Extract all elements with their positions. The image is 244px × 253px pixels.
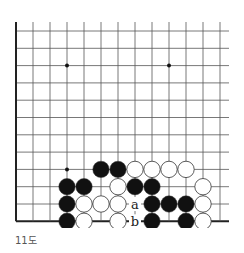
white-stone (93, 196, 109, 212)
white-stone (127, 161, 143, 177)
white-stone (144, 161, 160, 177)
black-stone (76, 179, 92, 195)
white-stone (76, 213, 92, 228)
point-label-b: b (131, 214, 139, 228)
star-point-icon (65, 167, 69, 171)
black-stone (59, 179, 75, 195)
black-stone (178, 213, 194, 228)
black-stone (144, 179, 160, 195)
black-stone (144, 196, 160, 212)
white-stone (178, 161, 194, 177)
diagram-caption: 11도 (15, 232, 37, 247)
white-stone (110, 213, 126, 228)
white-stone (76, 196, 92, 212)
go-board: ab (0, 0, 244, 228)
black-stone (59, 213, 75, 228)
black-stone (93, 161, 109, 177)
white-stone (110, 196, 126, 212)
white-stone (195, 179, 211, 195)
white-stone (195, 213, 211, 228)
black-stone (110, 161, 126, 177)
white-stone (195, 196, 211, 212)
black-stone (59, 196, 75, 212)
white-stone (110, 179, 126, 195)
black-stone (144, 213, 160, 228)
black-stone (127, 179, 143, 195)
black-stone (178, 196, 194, 212)
star-point-icon (65, 64, 69, 68)
black-stone (161, 196, 177, 212)
white-stone (161, 161, 177, 177)
point-label-a: a (131, 197, 139, 212)
star-point-icon (167, 64, 171, 68)
